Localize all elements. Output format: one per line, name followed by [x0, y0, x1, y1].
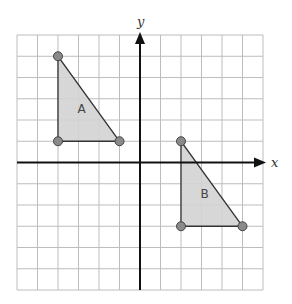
x-axis-label-text: x: [271, 155, 279, 170]
x-axis-arrow-icon: [254, 158, 266, 168]
shape-label-a: A: [78, 102, 87, 116]
y-axis-arrow-icon: [135, 32, 145, 44]
vertex-point: [54, 137, 63, 146]
coordinate-grid-svg: xyAB: [0, 0, 292, 304]
vertex-point: [115, 137, 124, 146]
shape-label-b: B: [201, 187, 209, 201]
vertex-point: [177, 222, 186, 231]
coordinate-plane: xyAB x y A B: [0, 0, 292, 304]
vertex-point: [54, 52, 63, 61]
y-axis-label-text: y: [136, 14, 145, 29]
vertex-point: [177, 137, 186, 146]
vertex-point: [238, 222, 247, 231]
